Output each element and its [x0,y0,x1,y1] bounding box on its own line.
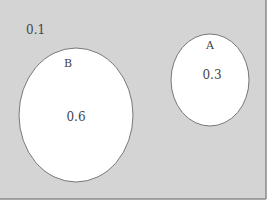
set-b-value-label: 0.6 [66,110,85,124]
set-a-value-label: 0.3 [202,68,221,82]
set-a-name-label: A [205,39,215,52]
venn-diagram: 0.1 B 0.6 A 0.3 [0,0,270,202]
set-b-name-label: B [64,57,72,70]
universe-value-label: 0.1 [26,23,45,37]
